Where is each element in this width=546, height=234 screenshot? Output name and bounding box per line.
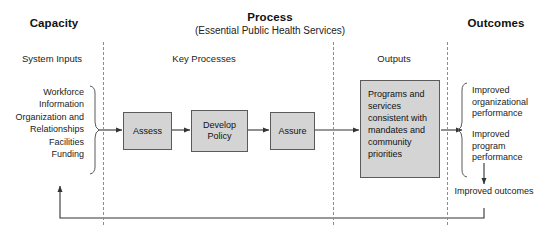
outcomes-heading: Outcomes	[450, 17, 542, 29]
outputs-label: Outputs	[346, 53, 442, 64]
system-inputs-label: System Inputs	[2, 53, 102, 64]
process-box-develop-policy: Develop Policy	[191, 110, 248, 152]
capacity-item-information: Information	[0, 98, 84, 110]
divider-outputs-outcomes	[447, 42, 448, 225]
capacity-item-facilities: Facilities	[0, 136, 84, 148]
capacity-heading: Capacity	[6, 17, 102, 29]
process-box-assure: Assure	[270, 112, 315, 150]
capacity-input-list: Workforce Information Organization and R…	[0, 86, 84, 160]
key-processes-label: Key Processes	[124, 53, 284, 64]
divider-process-outputs	[333, 42, 334, 225]
process-heading: Process	[160, 11, 380, 23]
capacity-item-organization-and-relationships: Organization and Relationships	[0, 111, 84, 136]
outputs-box: Programs and services consistent with ma…	[360, 80, 440, 178]
outcome-improved-outcomes: Improved outcomes	[448, 186, 540, 198]
outcome-item-organizational-performance: Improved organizational performance	[472, 85, 544, 120]
capacity-brace	[90, 86, 99, 174]
outcome-item-program-performance: Improved program performance	[472, 129, 544, 164]
feedback-loop-path	[60, 186, 484, 218]
process-box-assess: Assess	[123, 112, 172, 150]
capacity-item-workforce: Workforce	[0, 86, 84, 98]
capacity-item-funding: Funding	[0, 148, 84, 160]
divider-capacity-process	[103, 42, 104, 225]
capacity-process-outcomes-diagram: Capacity Process (Essential Public Healt…	[0, 0, 546, 234]
process-subheading: (Essential Public Health Services)	[160, 25, 380, 36]
